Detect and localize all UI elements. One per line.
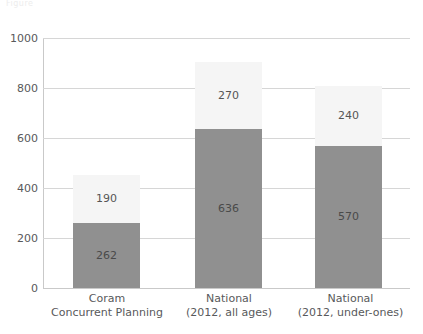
y-tick-label-800: 800 [2,83,38,94]
y-tick-label-400: 400 [2,183,38,194]
y-tick-label-200: 200 [2,233,38,244]
bar-segment-lower: 262 [73,223,140,289]
plot-area: 190 262 270 636 240 570 [43,38,410,288]
bar-value-lower: 636 [218,203,239,214]
bar-segment-lower: 636 [195,129,262,288]
y-axis-tick-labels: 1000 800 600 400 200 0 [0,0,38,334]
bar-national-under-ones[interactable]: 240 570 [315,86,382,289]
bar-coram-concurrent-planning[interactable]: 190 262 [73,175,140,288]
x-label-line-1: National [268,292,423,306]
bar-value-upper: 240 [338,110,359,121]
x-axis-category-labels: Coram Concurrent Planning National (2012… [43,292,410,332]
gridline-0 [43,288,410,289]
bar-segment-upper: 270 [195,62,262,130]
bar-segment-lower: 570 [315,146,382,289]
stacked-bar-chart: Figure 1000 800 600 400 200 0 190 262 [0,0,423,334]
x-label-national-under-ones: National (2012, under-ones) [268,292,423,320]
y-tick-label-1000: 1000 [2,33,38,44]
bar-value-upper: 190 [96,193,117,204]
gridline-1000 [43,38,410,39]
x-label-line-2: (2012, under-ones) [268,306,423,320]
bar-national-all-ages[interactable]: 270 636 [195,62,262,289]
bar-segment-upper: 190 [73,175,140,223]
bar-value-upper: 270 [218,90,239,101]
bar-segment-upper: 240 [315,86,382,146]
y-tick-label-600: 600 [2,133,38,144]
bar-value-lower: 262 [96,250,117,261]
bar-value-lower: 570 [338,211,359,222]
